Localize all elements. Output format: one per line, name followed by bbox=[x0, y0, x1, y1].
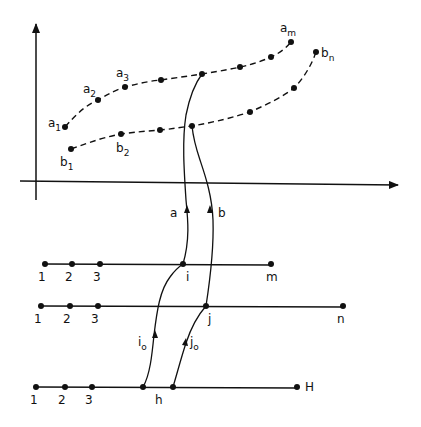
node-label-h: h bbox=[155, 393, 163, 407]
curve-a-label-2: a2 bbox=[83, 82, 96, 99]
curve-a-point bbox=[237, 64, 243, 70]
line-node bbox=[62, 384, 68, 390]
arrow-up-icon bbox=[184, 205, 190, 213]
node-label-n: n bbox=[337, 312, 345, 326]
path-j0-label: jo bbox=[189, 335, 199, 352]
diagram-canvas: a1a2a3am b1b2bn a b io jo 123im123jn123h… bbox=[0, 0, 421, 427]
node-index-label: 2 bbox=[63, 312, 71, 326]
node-index-label: 1 bbox=[30, 393, 38, 407]
line-n: 123jn bbox=[34, 303, 346, 326]
node-index-label: 3 bbox=[85, 393, 93, 407]
line-node bbox=[97, 261, 103, 267]
horizontal-lines: 123im123jn123hH bbox=[30, 261, 346, 407]
node-index-label: 2 bbox=[58, 393, 66, 407]
line-node bbox=[67, 303, 73, 309]
axes bbox=[20, 24, 398, 200]
path-i0-label: io bbox=[138, 335, 147, 352]
x-axis bbox=[20, 181, 398, 185]
node-label-i: i bbox=[186, 270, 189, 284]
curve-b-point bbox=[247, 109, 253, 115]
line-node bbox=[69, 261, 75, 267]
node-label-m: m bbox=[266, 270, 278, 284]
curve-a-label-m: am bbox=[280, 21, 296, 38]
path-a bbox=[183, 74, 202, 264]
curve-a-labels: a1a2a3am bbox=[48, 21, 296, 133]
curve-a-point bbox=[268, 54, 274, 60]
path-b bbox=[192, 126, 213, 306]
path-b-label: b bbox=[218, 206, 226, 220]
curve-b-point bbox=[118, 131, 124, 137]
line-node bbox=[89, 384, 95, 390]
line-H-stroke bbox=[36, 387, 297, 388]
curve-a-label-3: a3 bbox=[116, 66, 129, 83]
curve-a-points bbox=[62, 39, 294, 130]
connecting-paths: a b io jo bbox=[138, 74, 226, 387]
curve-b-point bbox=[313, 49, 319, 55]
curve-a-point bbox=[158, 77, 164, 83]
node-label-H: H bbox=[305, 380, 314, 394]
line-node bbox=[33, 384, 39, 390]
line-node bbox=[340, 303, 346, 309]
line-n-stroke bbox=[41, 306, 343, 307]
curve-b-label-2: b2 bbox=[116, 141, 129, 158]
curve-a-path bbox=[65, 42, 291, 127]
curve-b-label-n: bn bbox=[321, 46, 334, 63]
node-index-label: 2 bbox=[65, 270, 73, 284]
line-H: 123hH bbox=[30, 380, 314, 407]
curve-b-point bbox=[291, 85, 297, 91]
line-m-stroke bbox=[45, 264, 271, 265]
node-label-j: j bbox=[207, 312, 211, 326]
curve-a-point bbox=[288, 39, 294, 45]
line-node bbox=[203, 303, 209, 309]
line-node bbox=[294, 384, 300, 390]
node-index-label: 3 bbox=[93, 270, 101, 284]
curve-b-point bbox=[157, 127, 163, 133]
curve-a-label-1: a1 bbox=[48, 116, 61, 133]
curve-a: a1a2a3am bbox=[48, 21, 296, 133]
line-node bbox=[42, 261, 48, 267]
curve-b-point bbox=[68, 146, 74, 152]
line-node bbox=[140, 384, 146, 390]
line-node bbox=[38, 303, 44, 309]
node-index-label: 3 bbox=[91, 312, 99, 326]
node-index-label: 1 bbox=[34, 312, 42, 326]
curve-a-point bbox=[122, 84, 128, 90]
line-node bbox=[268, 261, 274, 267]
line-m: 123im bbox=[38, 261, 278, 284]
path-i0 bbox=[143, 264, 183, 387]
line-node bbox=[180, 261, 186, 267]
line-node bbox=[170, 384, 176, 390]
node-index-label: 1 bbox=[38, 270, 46, 284]
path-a-label: a bbox=[170, 206, 177, 220]
line-node bbox=[95, 303, 101, 309]
curve-a-point bbox=[62, 124, 68, 130]
curve-b-label-1: b1 bbox=[60, 155, 73, 172]
arrow-up-icon bbox=[152, 330, 158, 338]
